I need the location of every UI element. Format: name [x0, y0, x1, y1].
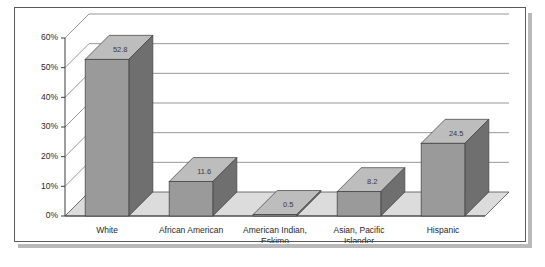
- axis-depth-edge: [65, 14, 89, 38]
- chart-panel: 0%10%20%30%40%50%60%52.811.60.58.224.5Wh…: [14, 7, 526, 242]
- y-axis-tick-label: 40%: [41, 92, 58, 102]
- bar-front-face: [253, 215, 297, 216]
- category-label: Hispanic: [427, 225, 460, 235]
- bar-front-face: [337, 192, 381, 216]
- category-label: American Indian,: [243, 225, 307, 235]
- screenshot-root: 0%10%20%30%40%50%60%52.811.60.58.224.5Wh…: [0, 0, 545, 267]
- category-label: African American: [159, 225, 224, 235]
- y-axis-tick-label: 60%: [41, 32, 58, 42]
- bar-value-label: 24.5: [449, 129, 464, 138]
- category-label: Islander: [344, 236, 374, 243]
- y-axis-tick-label: 10%: [41, 181, 58, 191]
- y-axis-tick-label: 0%: [46, 210, 59, 220]
- bar-value-label: 11.6: [197, 167, 211, 176]
- category-label: White: [96, 225, 118, 235]
- y-axis-tick-label: 30%: [41, 121, 58, 131]
- category-label: Asian, Pacific: [333, 225, 385, 235]
- bar-value-labels: 52.811.60.58.224.5: [113, 45, 464, 209]
- bar-side-face: [129, 35, 153, 216]
- chart-plot-area: 0%10%20%30%40%50%60%52.811.60.58.224.5Wh…: [15, 8, 527, 243]
- bar-value-label: 8.2: [367, 177, 377, 186]
- category-labels: WhiteAfrican AmericanAmerican Indian,Esk…: [96, 225, 460, 243]
- bars-group: [85, 35, 489, 216]
- bar-front-face: [85, 59, 129, 216]
- bar-value-label: 52.8: [113, 45, 128, 54]
- panel-drop-shadow-right: [528, 13, 532, 248]
- category-label: Eskimo: [261, 236, 289, 243]
- bar-chart-3d: 0%10%20%30%40%50%60%52.811.60.58.224.5Wh…: [15, 8, 527, 243]
- bar[interactable]: [85, 35, 153, 216]
- y-axis-tick-label: 50%: [41, 62, 58, 72]
- bar-front-face: [421, 143, 465, 216]
- bar-value-label: 0.5: [283, 200, 293, 209]
- bar-front-face: [169, 182, 213, 216]
- y-axis: 0%10%20%30%40%50%60%: [41, 32, 65, 220]
- y-axis-tick-label: 20%: [41, 151, 58, 161]
- panel-drop-shadow-bottom: [18, 244, 532, 248]
